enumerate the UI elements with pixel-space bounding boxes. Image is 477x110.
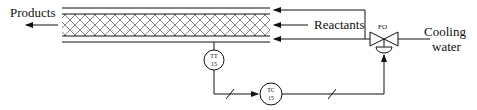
valve-body-left — [370, 32, 384, 46]
reactants-label: Reactants — [314, 17, 365, 32]
control-valve: FO — [370, 23, 398, 53]
cooling-water-label-line2: water — [432, 39, 462, 54]
products-stream: Products — [10, 5, 58, 25]
signal-tc-to-valve — [282, 55, 384, 99]
reactants-stream: Reactants — [274, 17, 365, 32]
valve-actuator — [376, 47, 392, 53]
tt-loop: 15 — [211, 61, 217, 67]
tt-type: TT — [210, 53, 218, 59]
tc-type: TC — [267, 87, 275, 93]
reactor-tube — [62, 8, 270, 42]
temperature-transmitter: TT 15 — [204, 42, 224, 70]
process-diagram: Products Reactants FO Cooling water TT 1… — [0, 0, 477, 110]
signal-tt-to-tc — [214, 70, 258, 99]
valve-body-right — [384, 32, 398, 46]
products-label: Products — [10, 5, 56, 20]
tc-loop: 15 — [268, 95, 274, 101]
catalyst-bed — [62, 14, 270, 36]
temperature-controller: TC 15 — [260, 83, 282, 105]
cooling-water-label-line1: Cooling — [424, 24, 466, 39]
valve-fail-open-tag: FO — [378, 23, 387, 31]
